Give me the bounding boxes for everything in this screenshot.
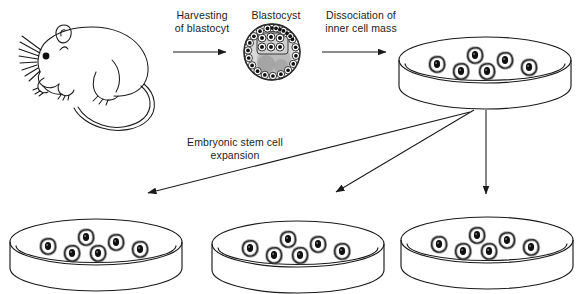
label-blastocyst: Blastocyst — [240, 9, 312, 22]
culture-dish-bottom-middle — [212, 221, 384, 293]
label-dissociation: Dissociation of inner cell mass — [316, 9, 406, 34]
arrow-to-bottom-middle-dish — [336, 110, 474, 192]
label-embryonic-stem-cell-expansion: Embryonic stem cell expansion — [176, 136, 294, 161]
culture-dish-bottom-right — [401, 217, 573, 289]
mouse-illustration — [19, 25, 154, 130]
blastocyst-illustration — [244, 24, 300, 80]
label-harvesting: Harvesting of blastocyt — [160, 9, 244, 34]
culture-dish-bottom-left — [10, 219, 182, 291]
stem-cell-derivation-diagram: Harvesting of blastocyt Blastocyst Disso… — [0, 0, 581, 294]
culture-dish-top-right — [399, 37, 571, 109]
